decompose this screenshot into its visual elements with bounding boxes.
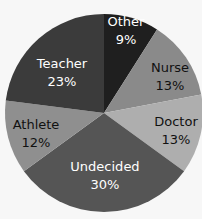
slice-percent: 30% xyxy=(91,177,120,192)
slice-label: Other xyxy=(108,14,146,29)
slice-label: Undecided xyxy=(70,159,139,174)
slice-percent: 12% xyxy=(22,135,51,150)
slice-label: Teacher xyxy=(36,56,88,71)
slice-percent: 13% xyxy=(162,132,191,147)
slice-percent: 13% xyxy=(156,78,185,93)
slice-label: Nurse xyxy=(151,60,189,75)
slice-label: Athlete xyxy=(13,117,60,132)
pie-chart: Other9%Nurse13%Doctor13%Undecided30%Athl… xyxy=(0,0,202,219)
slice-percent: 9% xyxy=(116,32,137,47)
slice-percent: 23% xyxy=(48,74,77,89)
slice-label: Doctor xyxy=(154,114,198,129)
